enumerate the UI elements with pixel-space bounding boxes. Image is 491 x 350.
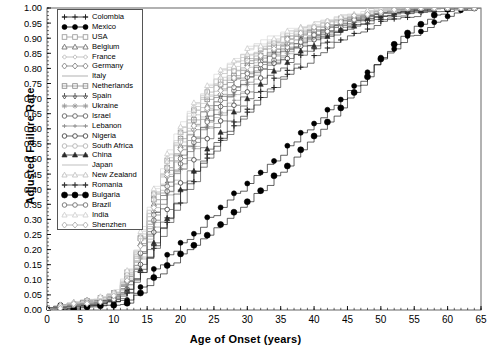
legend-item-label: Lebanon [90, 121, 122, 131]
legend-item-romania[interactable]: Romania [60, 180, 140, 190]
svg-text:0.00: 0.00 [24, 305, 42, 315]
legend-item-belgium[interactable]: Belgium [60, 42, 140, 52]
legend-item-label: China [90, 150, 112, 160]
legend-item-netherlands[interactable]: Netherlands [60, 81, 140, 91]
svg-text:0: 0 [44, 314, 50, 325]
legend-item-nigeria[interactable]: Nigeria [60, 131, 140, 141]
legend-item-label: Japan [90, 160, 113, 170]
svg-text:0.50: 0.50 [24, 154, 42, 164]
legend-symbol [60, 190, 90, 200]
legend-item-label: Spain [90, 91, 111, 101]
svg-text:20: 20 [175, 314, 187, 325]
legend-item-bulgaria[interactable]: Bulgaria [60, 190, 140, 200]
legend-item-spain[interactable]: Spain [60, 91, 140, 101]
legend-symbol [60, 61, 90, 71]
legend-symbol [60, 141, 90, 151]
legend-item-france[interactable]: France [60, 52, 140, 62]
legend-item-label: Belgium [90, 42, 119, 52]
legend-symbol [60, 150, 90, 160]
legend-item-label: USA [90, 32, 108, 42]
svg-text:0.10: 0.10 [24, 275, 42, 285]
legend-item-india[interactable]: India [60, 210, 140, 220]
svg-text:0.25: 0.25 [24, 230, 42, 240]
legend-symbol [60, 160, 90, 170]
svg-text:0.70: 0.70 [24, 94, 42, 104]
legend-symbol [60, 101, 90, 111]
legend-symbol [60, 131, 90, 141]
legend-item-label: South Africa [90, 141, 133, 151]
legend-item-ukraine[interactable]: Ukraine [60, 101, 140, 111]
legend-item-label: India [90, 210, 108, 220]
svg-text:0.40: 0.40 [24, 185, 42, 195]
svg-text:55: 55 [409, 314, 421, 325]
legend-item-new-zealand[interactable]: New Zealand [60, 170, 140, 180]
legend-item-label: Germany [90, 61, 123, 71]
legend-symbol [60, 180, 90, 190]
svg-text:0.80: 0.80 [24, 64, 42, 74]
legend-symbol [60, 170, 90, 180]
legend-symbol [60, 210, 90, 220]
legend-item-shenzhen[interactable]: Shenzhen [60, 220, 140, 230]
legend-item-label: Italy [90, 71, 106, 81]
legend-item-label: France [90, 52, 116, 62]
chart-figure: Adjusted Failure Rate Age of Onset (year… [0, 0, 491, 350]
legend-item-label: Mexico [90, 22, 116, 32]
legend-item-china[interactable]: China [60, 150, 140, 160]
svg-text:0.15: 0.15 [24, 260, 42, 270]
svg-text:0.35: 0.35 [24, 200, 42, 210]
legend-item-label: Netherlands [90, 81, 133, 91]
legend-symbol [60, 12, 90, 22]
chart-legend: ColombiaMexicoUSABelgiumFranceGermanyIta… [57, 9, 143, 230]
legend-symbol [60, 81, 90, 91]
legend-item-label: New Zealand [90, 170, 137, 180]
legend-item-south-africa[interactable]: South Africa [60, 141, 140, 151]
svg-text:45: 45 [342, 314, 354, 325]
svg-text:35: 35 [275, 314, 287, 325]
svg-text:0.85: 0.85 [24, 49, 42, 59]
svg-text:5: 5 [78, 314, 84, 325]
legend-item-mexico[interactable]: Mexico [60, 22, 140, 32]
legend-symbol [60, 42, 90, 52]
legend-item-label: Colombia [90, 12, 124, 22]
legend-item-brazil[interactable]: Brazil [60, 200, 140, 210]
svg-text:0.75: 0.75 [24, 79, 42, 89]
legend-symbol [60, 200, 90, 210]
legend-item-italy[interactable]: Italy [60, 71, 140, 81]
svg-text:10: 10 [108, 314, 120, 325]
svg-text:0.30: 0.30 [24, 215, 42, 225]
legend-item-colombia[interactable]: Colombia [60, 12, 140, 22]
legend-item-israel[interactable]: Israel [60, 111, 140, 121]
legend-symbol [60, 91, 90, 101]
svg-text:25: 25 [208, 314, 220, 325]
svg-text:0.65: 0.65 [24, 109, 42, 119]
legend-item-label: Brazil [90, 200, 111, 210]
svg-text:30: 30 [242, 314, 254, 325]
svg-text:0.95: 0.95 [24, 19, 42, 29]
legend-item-label: Shenzhen [90, 220, 126, 230]
svg-text:60: 60 [442, 314, 454, 325]
legend-item-label: Bulgaria [90, 190, 120, 200]
legend-symbol [60, 111, 90, 121]
svg-text:0.45: 0.45 [24, 170, 42, 180]
legend-symbol [60, 22, 90, 32]
svg-text:0.05: 0.05 [24, 290, 42, 300]
svg-text:0.55: 0.55 [24, 139, 42, 149]
legend-item-label: Israel [90, 111, 111, 121]
svg-text:1.00: 1.00 [24, 3, 42, 13]
legend-symbol [60, 52, 90, 62]
legend-item-label: Ukraine [90, 101, 118, 111]
svg-text:65: 65 [475, 314, 487, 325]
legend-item-label: Nigeria [90, 131, 116, 141]
legend-item-label: Romania [90, 180, 122, 190]
legend-item-japan[interactable]: Japan [60, 160, 140, 170]
legend-symbol [60, 32, 90, 42]
legend-symbol [60, 71, 90, 81]
svg-text:0.60: 0.60 [24, 124, 42, 134]
legend-item-germany[interactable]: Germany [60, 61, 140, 71]
legend-symbol [60, 121, 90, 131]
legend-symbol [60, 220, 90, 230]
legend-item-usa[interactable]: USA [60, 32, 140, 42]
svg-text:15: 15 [142, 314, 154, 325]
legend-item-lebanon[interactable]: Lebanon [60, 121, 140, 131]
svg-text:40: 40 [309, 314, 321, 325]
